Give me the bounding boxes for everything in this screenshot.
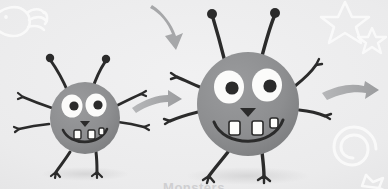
- monster-illustration: [0, 0, 388, 189]
- large-monster-pupil-right: [263, 79, 276, 92]
- large-monster-shadow: [186, 167, 310, 185]
- small-monster-pupil-right: [93, 100, 102, 109]
- small-monster-pupil-left: [69, 101, 78, 110]
- small-monster-body: [50, 82, 120, 154]
- large-monster-antenna-bulb-left: [207, 9, 217, 19]
- small-monster-antenna-bulb-left: [46, 54, 54, 62]
- illustration-canvas: Monsters: [0, 0, 388, 189]
- small-monster-antenna-bulb-right: [102, 55, 110, 63]
- large-monster-pupil-left: [225, 81, 238, 94]
- large-monster-antenna-bulb-right: [270, 8, 280, 18]
